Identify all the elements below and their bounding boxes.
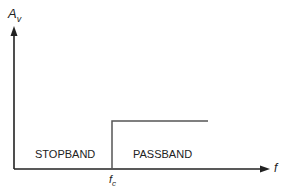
- stopband-label: STOPBAND: [35, 148, 95, 160]
- y-axis-arrow-icon: [11, 26, 18, 36]
- passband-label: PASSBAND: [133, 148, 192, 160]
- x-axis-arrow-icon: [260, 166, 270, 173]
- filter-response-chart: [0, 0, 284, 191]
- x-axis-label: f: [274, 161, 277, 175]
- cutoff-label-sub: c: [112, 179, 116, 188]
- y-axis-label-main: A: [8, 6, 17, 21]
- y-axis-label-sub: v: [17, 14, 22, 24]
- y-axis-label: Av: [8, 6, 21, 24]
- cutoff-frequency-label: fc: [109, 173, 116, 188]
- passband-response-line: [112, 121, 208, 169]
